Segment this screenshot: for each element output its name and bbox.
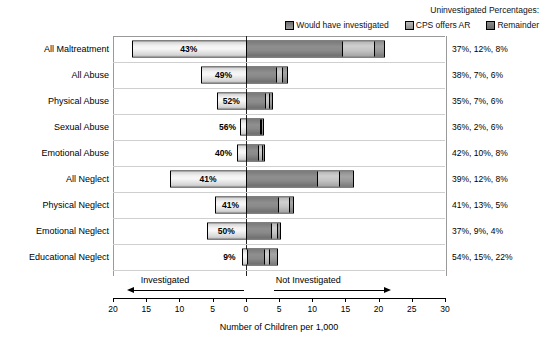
x-axis-tick [445, 298, 446, 302]
legend-label-would-have-investigated: Would have investigated [296, 20, 388, 30]
row-percentage-annotation: 37%, 9%, 4% [452, 226, 544, 236]
row-percentage-annotation: 35%, 7%, 6% [452, 96, 544, 106]
row-percentage-annotation: 41%, 13%, 5% [452, 200, 544, 210]
category-label: All Neglect [2, 174, 109, 184]
segment-cps-offers-ar [342, 42, 374, 57]
gridline [113, 270, 445, 271]
x-axis-tick [345, 298, 346, 302]
segment-would-have-investigated [246, 68, 276, 83]
stacked-bar [242, 249, 277, 266]
legend-label-cps-offers-ar: CPS offers AR [416, 20, 471, 30]
bar-percent-label: 43% [180, 44, 197, 54]
segment-remainder [261, 120, 263, 135]
row-percentage-annotation: 39%, 12%, 8% [452, 174, 544, 184]
category-label: Emotional Abuse [2, 148, 109, 158]
not-investigated-direction-label: Not Investigated [276, 275, 341, 285]
investigated-arrow-line [134, 290, 244, 291]
segment-remainder [269, 250, 277, 265]
x-axis-tick-label: 20 [374, 304, 383, 314]
not-investigated-arrow-line [274, 290, 384, 291]
segment-would-have-investigated [246, 42, 342, 57]
segment-remainder [262, 146, 265, 161]
chart-row: Physical Abuse52%35%, 7%, 6% [0, 88, 545, 114]
not-investigated-arrow-head [384, 287, 391, 293]
bar-percent-label: 41% [199, 174, 216, 184]
x-axis-tick-label: 15 [141, 304, 150, 314]
investigated-direction-label: Investigated [141, 275, 190, 285]
legend-swatch-would-have-investigated [285, 21, 294, 30]
legend-swatch-cps-offers-ar [405, 21, 414, 30]
stacked-bar [240, 119, 264, 136]
bar-percent-label: 40% [215, 148, 232, 158]
segment-would-have-investigated [246, 146, 258, 161]
category-label: All Maltreatment [2, 44, 109, 54]
stacked-bar [237, 145, 266, 162]
bar-percent-label: 56% [219, 122, 236, 132]
category-label: Sexual Abuse [2, 122, 109, 132]
segment-remainder [269, 94, 272, 109]
bar-percent-label: 9% [223, 252, 235, 262]
bar-percent-label: 41% [222, 200, 239, 210]
x-axis-tick [312, 298, 313, 302]
stacked-bar [170, 171, 354, 188]
x-axis-tick-label: 5 [210, 304, 215, 314]
chart-row: Emotional Neglect50%37%, 9%, 4% [0, 218, 545, 244]
row-percentage-annotation: 54%, 15%, 22% [452, 252, 544, 262]
row-percentage-annotation: 38%, 7%, 6% [452, 70, 544, 80]
x-axis-tick [246, 298, 247, 302]
chart-row: Sexual Abuse56%36%, 2%, 6% [0, 114, 545, 140]
legend-item-would-have-investigated: Would have investigated [285, 20, 388, 30]
segment-would-have-investigated [246, 224, 271, 239]
x-axis-tick [113, 298, 114, 302]
legend-label-remainder: Remainder [497, 20, 539, 30]
chart-row: Educational Neglect9%54%, 15%, 22% [0, 244, 545, 270]
x-axis-tick [146, 298, 147, 302]
bar-percent-label: 50% [218, 226, 235, 236]
category-label: Educational Neglect [2, 252, 109, 262]
x-axis-tick [213, 298, 214, 302]
x-axis-title: Number of Children per 1,000 [113, 322, 445, 332]
segment-remainder [339, 172, 353, 187]
row-percentage-annotation: 36%, 2%, 6% [452, 122, 544, 132]
segment-remainder [289, 198, 293, 213]
legend-title: Uninvestigated Percentages: [430, 5, 539, 15]
x-axis-tick-label: 25 [407, 304, 416, 314]
investigated-arrow-head [127, 287, 134, 293]
category-label: All Abuse [2, 70, 109, 80]
chart-row: Physical Neglect41%41%, 13%, 5% [0, 192, 545, 218]
segment-investigated [238, 146, 247, 161]
category-label: Emotional Neglect [2, 226, 109, 236]
segment-would-have-investigated [246, 172, 317, 187]
chart-row: All Neglect41%39%, 12%, 8% [0, 166, 545, 192]
x-axis-tick [179, 298, 180, 302]
x-axis-tick [412, 298, 413, 302]
bar-percent-label: 49% [215, 70, 232, 80]
segment-would-have-investigated [247, 250, 265, 265]
chart-row: All Abuse49%38%, 7%, 6% [0, 62, 545, 88]
chart-legend: Would have investigated CPS offers AR Re… [285, 20, 539, 30]
x-axis-tick [279, 298, 280, 302]
x-axis-tick-label: 15 [341, 304, 350, 314]
legend-item-cps-offers-ar: CPS offers AR [405, 20, 471, 30]
legend-item-remainder: Remainder [486, 20, 539, 30]
category-label: Physical Neglect [2, 200, 109, 210]
segment-cps-offers-ar [278, 198, 288, 213]
segment-would-have-investigated [246, 198, 278, 213]
x-axis-tick-label: 10 [307, 304, 316, 314]
row-percentage-annotation: 37%, 12%, 8% [452, 44, 544, 54]
segment-remainder [374, 42, 385, 57]
x-axis-tick [379, 298, 380, 302]
chart-row: Emotional Abuse40%42%, 10%, 8% [0, 140, 545, 166]
chart-container: Uninvestigated Percentages: Would have i… [0, 0, 545, 343]
x-axis-tick-label: 0 [243, 304, 248, 314]
legend-swatch-remainder [486, 21, 495, 30]
row-percentage-annotation: 42%, 10%, 8% [452, 148, 544, 158]
x-axis-tick-label: 20 [108, 304, 117, 314]
stacked-bar [132, 41, 386, 58]
x-axis-tick-label: 30 [440, 304, 449, 314]
segment-cps-offers-ar [317, 172, 339, 187]
bar-percent-label: 52% [223, 96, 240, 106]
segment-remainder [277, 224, 280, 239]
x-axis-tick-label: 5 [277, 304, 282, 314]
category-label: Physical Abuse [2, 96, 109, 106]
